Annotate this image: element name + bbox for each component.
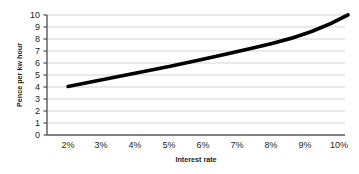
y-tick-label: 0 xyxy=(35,130,40,140)
x-axis-tick-labels: 2% 3% 4% 5% 6% 7% 8% 9% 10% xyxy=(61,140,348,150)
y-tick-label: 9 xyxy=(35,22,40,32)
x-tick-label: 10% xyxy=(330,140,348,150)
x-tick-label: 4% xyxy=(128,140,141,150)
y-tick-label: 4 xyxy=(35,82,40,92)
x-tick-label: 3% xyxy=(94,140,107,150)
y-tick-label: 7 xyxy=(35,46,40,56)
y-tick-label: 8 xyxy=(35,34,40,44)
x-axis-title: Interest rate xyxy=(175,155,216,164)
line-chart: 10 9 8 7 6 5 4 3 2 1 0 2% 3% 4% 5% 6% 7%… xyxy=(0,0,359,174)
x-tick-label: 2% xyxy=(61,140,74,150)
y-tick-label: 5 xyxy=(35,70,40,80)
chart-container: 10 9 8 7 6 5 4 3 2 1 0 2% 3% 4% 5% 6% 7%… xyxy=(0,0,359,174)
y-tick-label: 6 xyxy=(35,58,40,68)
y-tick-label: 1 xyxy=(35,118,40,128)
y-tick-label: 2 xyxy=(35,106,40,116)
x-tick-label: 6% xyxy=(196,140,209,150)
y-axis-title: Pence per kw hour xyxy=(15,43,24,107)
y-tick-label: 10 xyxy=(30,10,40,20)
x-tick-label: 8% xyxy=(264,140,277,150)
y-tick-label: 3 xyxy=(35,94,40,104)
x-tick-label: 9% xyxy=(298,140,311,150)
x-tick-label: 5% xyxy=(162,140,175,150)
x-tick-label: 7% xyxy=(230,140,243,150)
